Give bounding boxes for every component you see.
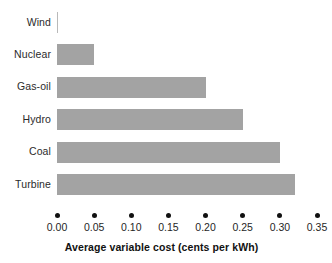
x-tick-label: 0.10	[111, 221, 151, 233]
x-tick-label: 0.35	[297, 221, 332, 233]
x-tick-label: 0.20	[186, 221, 226, 233]
bar-wind	[57, 12, 58, 33]
bar-hydro	[57, 109, 243, 130]
category-label-nuclear: Nuclear	[3, 48, 51, 60]
bar-turbine	[57, 174, 295, 195]
category-label-turbine: Turbine	[3, 178, 51, 190]
bar-gas-oil	[57, 77, 206, 98]
x-tick-dot	[166, 213, 171, 218]
x-tick-dot	[129, 213, 134, 218]
x-tick-dot	[203, 213, 208, 218]
category-label-wind: Wind	[3, 16, 51, 28]
x-tick-label: 0.05	[74, 221, 114, 233]
x-tick-label: 0.00	[37, 221, 77, 233]
x-tick-dot	[315, 213, 320, 218]
category-axis: Wind Nuclear Gas-oil Hydro Coal Turbine	[0, 8, 51, 205]
bar-nuclear	[57, 44, 94, 65]
x-tick-dot	[92, 213, 97, 218]
x-tick-label: 0.15	[148, 221, 188, 233]
category-label-gas-oil: Gas-oil	[3, 80, 51, 92]
x-tick-dot	[240, 213, 245, 218]
x-tick-dot	[55, 213, 60, 218]
bar-coal	[57, 142, 280, 163]
x-tick-label: 0.25	[223, 221, 263, 233]
plot-area	[57, 8, 317, 205]
category-label-coal: Coal	[3, 145, 51, 157]
x-tick-label: 0.30	[260, 221, 300, 233]
x-axis-title: Average variable cost (cents per kWh)	[0, 241, 323, 253]
x-axis: 0.000.050.100.150.200.250.300.35	[57, 205, 317, 235]
category-label-hydro: Hydro	[3, 113, 51, 125]
x-tick-dot	[277, 213, 282, 218]
